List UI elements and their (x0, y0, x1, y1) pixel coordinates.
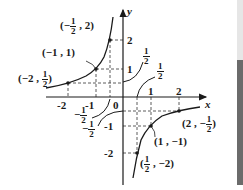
x-tick-1: 1 (148, 86, 154, 97)
hyperbola-diagram (0, 0, 243, 190)
y-tick-2: 2 (127, 35, 133, 46)
edge-strip (237, 0, 243, 190)
y-tick-1: 1 (127, 64, 133, 75)
point-label-1-neg1: (1 , −1) (154, 136, 187, 147)
point-label-2-neg-half: (2 , −12) (182, 115, 216, 134)
x-tick-neg2: -2 (57, 100, 66, 111)
x-axis-label: x (205, 99, 211, 110)
curve-label-half-a: 12 (143, 47, 150, 66)
y-axis-label: y (127, 6, 132, 17)
curve-label-neg-half-b: −12 (82, 120, 95, 139)
x-tick-2: 2 (176, 86, 182, 97)
y-tick-neg1: -1 (104, 121, 113, 132)
point-label-neg-half-2: (−12 , 2) (60, 17, 94, 36)
edge-strip-bottom (237, 60, 243, 185)
point-label-neg1-1: (−1 , 1) (42, 47, 75, 58)
point-label-half-neg2: (12 , −2) (140, 155, 174, 174)
point-label-neg2-half: (−2 , 12) (18, 70, 52, 89)
curve-label-half-b: 12 (157, 62, 164, 81)
origin-label: 0 (113, 100, 119, 111)
edge-strip-top (237, 0, 243, 60)
curve-half-upper (123, 62, 143, 82)
y-tick-neg2: -2 (104, 148, 113, 159)
